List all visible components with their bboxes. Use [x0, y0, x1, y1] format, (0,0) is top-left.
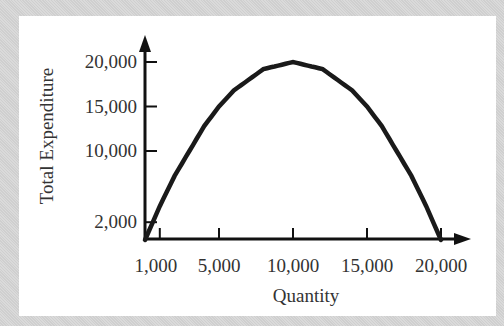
total-expenditure-curve: [145, 62, 441, 240]
y-axis-title: Total Expenditure: [36, 68, 57, 204]
chart-svg: 2,00010,00015,00020,000 1,0005,00010,000…: [0, 0, 504, 326]
y-tick-label: 20,000: [85, 51, 137, 72]
x-axis-title: Quantity: [273, 285, 340, 306]
x-axis-arrow-icon: [454, 233, 471, 245]
x-ticks: 1,0005,00010,00015,00020,000: [134, 228, 467, 276]
x-tick-label: 10,000: [267, 255, 319, 276]
y-axis-arrow-icon: [139, 35, 151, 52]
x-tick-label: 5,000: [198, 255, 241, 276]
x-tick-label: 15,000: [341, 255, 393, 276]
y-tick-label: 15,000: [85, 96, 137, 117]
x-tick-label: 20,000: [415, 255, 467, 276]
y-tick-label: 10,000: [85, 140, 137, 161]
x-tick-label: 1,000: [134, 255, 177, 276]
y-tick-label: 2,000: [94, 211, 137, 232]
